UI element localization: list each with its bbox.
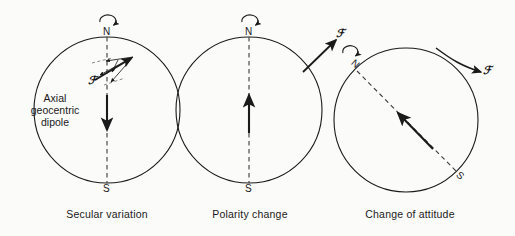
dipole-label-line-2: geocentric [31, 104, 79, 116]
dipole-label-line-3: dipole [41, 116, 69, 128]
dipole-label-line-1: Axial [44, 92, 67, 104]
rotation-arrow-icon [242, 15, 258, 25]
caption-change-of-attitude: Change of attitude [340, 208, 480, 220]
rotation-arrow-icon [100, 15, 116, 25]
caption-polarity-change: Polarity change [185, 208, 315, 220]
caption-secular-variation: Secular variation [37, 208, 177, 220]
rotation-arrow-icon [343, 46, 358, 56]
south-pole-label-panel2: S [245, 183, 252, 194]
secular-variation-vectors [92, 57, 133, 85]
panel-polarity-change [176, 15, 336, 183]
north-pole-label-panel2: N [245, 26, 252, 37]
north-pole-label-panel1: N [103, 26, 110, 37]
south-pole-label-panel1: S [103, 183, 110, 194]
field-vector [436, 48, 481, 72]
field-symbol-panel1: ℱ [88, 74, 97, 87]
field-vector [303, 40, 336, 72]
axial-dipole-label: Axial geocentric dipole [26, 92, 84, 128]
field-symbol-panel3: ℱ [483, 64, 492, 77]
axial-dipole-arrow [398, 113, 433, 149]
field-symbol-panel2: ℱ [336, 27, 345, 40]
